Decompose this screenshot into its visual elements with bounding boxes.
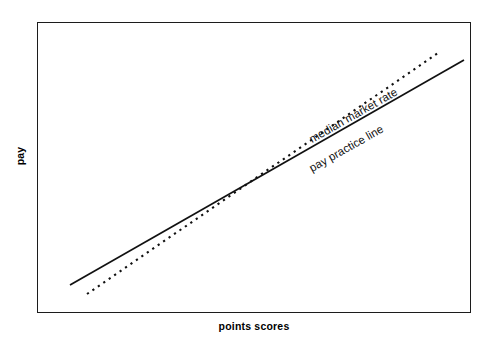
- y-axis-title: pay: [14, 136, 26, 176]
- chart-page: median market rate pay practice line pay…: [0, 0, 496, 339]
- x-axis-title: points scores: [37, 320, 471, 332]
- plot-frame: [37, 22, 471, 313]
